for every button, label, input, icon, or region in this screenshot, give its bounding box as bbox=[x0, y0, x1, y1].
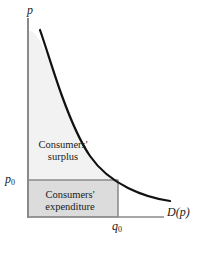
consumers-expenditure-label-line2: expenditure bbox=[28, 201, 112, 213]
q0-tick-subscript: 0 bbox=[118, 225, 122, 234]
p0-tick-label: p0 bbox=[5, 173, 15, 187]
y-axis-label: p bbox=[27, 4, 33, 16]
chart-canvas bbox=[0, 0, 200, 260]
x-axis-label: D(p) bbox=[167, 206, 190, 218]
consumers-surplus-label-line1: Consumers' bbox=[30, 139, 96, 151]
consumers-surplus-label-line2: surplus bbox=[30, 151, 96, 163]
consumers-expenditure-label-line1: Consumers' bbox=[28, 189, 112, 201]
consumers-expenditure-label: Consumers' expenditure bbox=[28, 189, 112, 213]
q0-tick-label: q0 bbox=[112, 220, 122, 234]
consumer-surplus-figure: p D(p) p0 q0 Consumers' surplus Consumer… bbox=[0, 0, 200, 260]
consumers-surplus-label: Consumers' surplus bbox=[30, 139, 96, 163]
p0-tick-subscript: 0 bbox=[11, 178, 15, 187]
